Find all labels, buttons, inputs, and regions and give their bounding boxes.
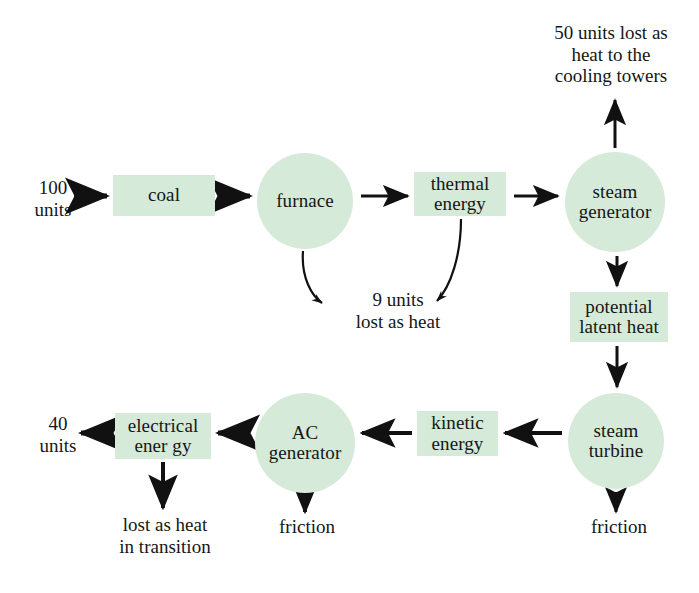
node-thermal-energy-label: thermal energy xyxy=(431,174,490,214)
node-ac-generator-label: AC generator xyxy=(269,423,342,463)
node-steam-generator[interactable]: steam generator xyxy=(565,152,665,252)
node-thermal-energy[interactable]: thermal energy xyxy=(414,172,506,216)
node-furnace[interactable]: furnace xyxy=(257,153,353,249)
node-steam-turbine[interactable]: steam turbine xyxy=(568,393,664,489)
node-potential-latent-heat-label: potential latent heat xyxy=(579,297,659,337)
node-coal-label: coal xyxy=(148,185,180,205)
label-ac-generator-friction: friction xyxy=(268,516,346,538)
label-input-units: 100 units xyxy=(22,177,84,220)
node-steam-turbine-label: steam turbine xyxy=(589,421,644,461)
label-output-units: 40 units xyxy=(27,413,89,456)
node-furnace-label: furnace xyxy=(276,191,334,211)
node-kinetic-energy[interactable]: kinetic energy xyxy=(417,411,498,456)
energy-flow-diagram: coal furnace thermal energy steam genera… xyxy=(0,0,699,593)
node-coal[interactable]: coal xyxy=(113,175,215,216)
node-kinetic-energy-label: kinetic energy xyxy=(431,413,483,453)
node-steam-generator-label: steam generator xyxy=(579,182,652,222)
label-cooling-tower-loss: 50 units lost as heat to the cooling tow… xyxy=(525,22,697,87)
label-steam-turbine-friction: friction xyxy=(580,516,658,538)
label-furnace-heat-loss: 9 units lost as heat xyxy=(328,289,468,332)
node-electrical-energy-label: electrical ener gy xyxy=(128,416,199,456)
edge-furnace-to-heat-loss xyxy=(303,251,322,303)
node-electrical-energy[interactable]: electrical ener gy xyxy=(115,413,211,459)
node-ac-generator[interactable]: AC generator xyxy=(255,393,355,493)
node-potential-latent-heat[interactable]: potential latent heat xyxy=(570,292,668,342)
label-transition-heat-loss: lost as heat in transition xyxy=(100,514,230,557)
